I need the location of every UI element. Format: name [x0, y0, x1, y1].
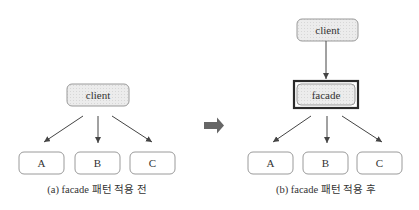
- right-node-c-label: C: [376, 157, 383, 169]
- left-client-node: client: [67, 84, 129, 106]
- left-client-label: client: [86, 89, 110, 101]
- left-node-a-label: A: [38, 157, 46, 169]
- left-node-c-label: C: [149, 157, 156, 169]
- left-edge-a: [44, 116, 83, 142]
- right-edge-c: [342, 116, 382, 142]
- right-node-b: B: [303, 152, 348, 174]
- right-node-a-label: A: [267, 157, 275, 169]
- right-node-c: C: [357, 152, 402, 174]
- left-node-a: A: [19, 152, 64, 174]
- left-diagram: client A B C (a) facade 패턴 적용 전: [19, 84, 175, 196]
- right-arrow-icon: [204, 118, 224, 134]
- right-edge-a: [273, 116, 311, 142]
- facade-label: facade: [312, 89, 341, 101]
- right-caption: (b) facade 패턴 적용 후: [276, 184, 376, 196]
- left-node-b-label: B: [94, 157, 101, 169]
- left-edge-c: [112, 116, 152, 142]
- left-node-c: C: [130, 152, 175, 174]
- right-client-label: client: [315, 24, 339, 36]
- right-client-node: client: [297, 19, 358, 41]
- facade-diagram: client A B C (a) facade 패턴 적용 전 client: [0, 0, 419, 210]
- left-caption: (a) facade 패턴 적용 전: [47, 184, 147, 196]
- right-node-a: A: [248, 152, 293, 174]
- facade-node: facade: [294, 81, 358, 108]
- left-node-b: B: [75, 152, 120, 174]
- right-diagram: client facade A B C (b) facade 패턴 적용 후: [248, 19, 402, 196]
- right-node-b-label: B: [322, 157, 329, 169]
